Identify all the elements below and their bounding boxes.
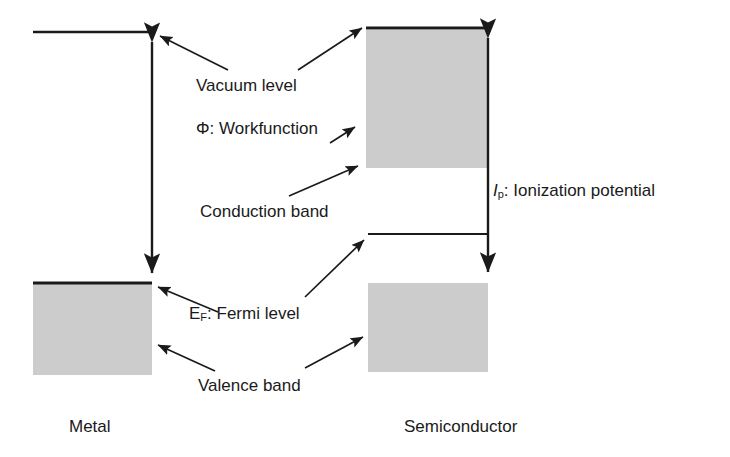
semiconductor-valence-band-block — [368, 283, 488, 372]
semiconductor-axis-label: Semiconductor — [404, 418, 517, 435]
valence-band-label: Valence band — [198, 377, 301, 394]
valence-band-top-leader — [305, 240, 364, 297]
conduction-band-label: Conduction band — [200, 203, 329, 220]
workfunction-text: : Workfunction — [210, 119, 318, 138]
metal-filled-band-block — [33, 283, 152, 375]
workfunction-label: Φ: Workfunction — [196, 120, 318, 137]
valence-band-leader-left — [158, 345, 215, 371]
workfunction-symbol: Φ — [196, 119, 210, 138]
fermi-level-label: EF: Fermi level — [189, 305, 300, 322]
fermi-symbol: E — [189, 304, 200, 323]
energy-band-diagram: Vacuum level Φ: Workfunction Conduction … — [0, 0, 730, 457]
semiconductor-group — [366, 28, 488, 372]
fermi-text: : Fermi level — [207, 304, 300, 323]
ionization-potential-label: Ip: Ionization potential — [493, 182, 655, 199]
vacuum-level-leader-right — [298, 28, 362, 70]
vacuum-level-leader-left — [160, 36, 228, 70]
conduction-band-leader — [289, 166, 358, 196]
metal-group — [33, 32, 152, 375]
diagram-canvas — [0, 0, 730, 457]
ionization-text: : Ionization potential — [504, 181, 655, 200]
metal-axis-label: Metal — [69, 418, 111, 435]
semiconductor-conduction-band-block — [366, 30, 488, 168]
vacuum-level-label: Vacuum level — [196, 77, 297, 94]
valence-band-leader-right — [305, 337, 363, 368]
workfunction-leader — [330, 127, 355, 143]
